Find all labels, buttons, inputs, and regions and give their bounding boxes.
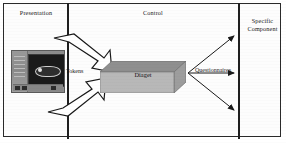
column-title-specific-component-line2: Component: [247, 25, 277, 32]
column-title-specific-component-line1: Specific: [252, 17, 273, 24]
tokens-arrow-lower: [46, 74, 108, 118]
questionnaires-label: Questionnaires: [186, 67, 240, 73]
questionnaires-arrows: [186, 32, 242, 114]
column-title-presentation: Presentation: [5, 9, 67, 17]
column-title-specific-component: Specific Component: [240, 17, 285, 33]
diagram-canvas: Presentation Control Specific Component: [0, 0, 286, 143]
diaget-slab-label: Diaget: [100, 71, 186, 78]
column-title-control: Control: [69, 9, 237, 17]
